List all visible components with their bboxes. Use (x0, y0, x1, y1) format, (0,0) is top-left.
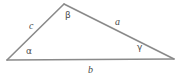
triangle-side-c-line (7, 4, 64, 60)
angle-label-beta: β (65, 11, 71, 20)
side-label-a: a (115, 17, 120, 27)
triangle-side-a-line (64, 4, 174, 59)
triangle-side-b-line (7, 59, 174, 60)
triangle-diagram: c a b α β γ (0, 0, 180, 78)
side-label-b: b (88, 65, 93, 75)
angle-label-alpha: α (26, 47, 32, 56)
angle-label-gamma: γ (137, 43, 142, 52)
side-label-c: c (29, 21, 33, 31)
